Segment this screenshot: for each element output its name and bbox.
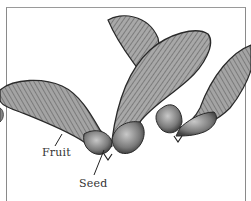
samara-illustration bbox=[0, 0, 251, 201]
fruit-leader-line bbox=[55, 134, 62, 146]
fruit-label: Fruit bbox=[42, 146, 71, 159]
partial-seed-left bbox=[0, 108, 3, 122]
seed-label: Seed bbox=[79, 177, 107, 190]
